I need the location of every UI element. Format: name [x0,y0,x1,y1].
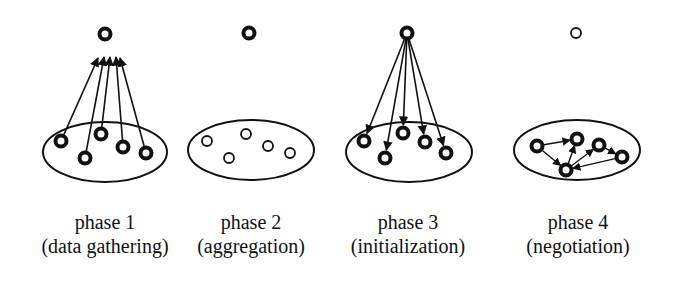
phase-1-title: phase 1 [41,210,168,234]
phase-3-subtitle: (initialization) [351,234,465,258]
group-node [441,148,452,159]
phase-1-label: phase 1 (data gathering) [41,210,168,258]
upload-arrow [102,57,110,127]
group-node [572,134,583,145]
group-node [80,153,91,164]
phase-2-title: phase 2 [197,210,305,234]
upload-arrow [120,58,144,146]
group-node [202,136,212,146]
group-node [561,165,572,176]
coordinator-node [571,28,581,38]
phase-2-graphic [188,28,314,181]
coordinator-node [100,29,111,40]
broadcast-arrow [367,40,404,134]
phase-2-label: phase 2 (aggregation) [197,210,305,258]
phase-2-subtitle: (aggregation) [197,234,305,258]
negotiation-arrow [568,146,574,164]
group-node [96,129,107,140]
phase-4-graphic [514,28,640,180]
negotiation-arrow [544,140,570,145]
broadcast-arrow [409,40,443,146]
phase-4-subtitle: (negotiation) [526,234,629,258]
phase-1-graphic [43,29,167,183]
negotiation-arrow [605,148,616,154]
group-node [224,153,234,163]
group-node [532,141,543,152]
group-node [141,148,152,159]
phase-4-title: phase 4 [526,210,629,234]
group-node [380,153,391,164]
phase-3-label: phase 3 (initialization) [351,210,465,258]
phase-4-label: phase 4 (negotiation) [526,210,629,258]
group-node [118,142,129,153]
negotiation-arrow [542,150,560,165]
phase-3-graphic [346,28,472,183]
broadcast-arrow [408,40,424,134]
negotiation-arrow [572,149,594,166]
coordinator-node [402,28,413,39]
phase-3-title: phase 3 [351,210,465,234]
upload-arrow [116,57,122,140]
group-node [594,140,605,151]
group-node [263,141,273,151]
group-node [398,128,409,139]
phase-1-subtitle: (data gathering) [41,234,168,258]
coordinator-node [244,28,255,39]
group-node [285,148,295,158]
group-node [617,152,628,163]
group-node [241,129,251,139]
group-node [56,136,67,147]
group-node [420,137,431,148]
group-node [359,136,370,147]
node-group-ellipse [188,120,314,180]
